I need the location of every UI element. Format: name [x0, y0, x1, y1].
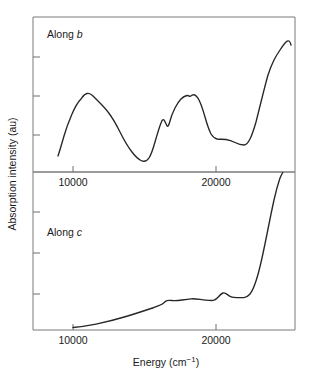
spectrum-curve-along-b [58, 41, 291, 161]
x-tick-label-lower-10000: 10000 [58, 334, 87, 346]
chart-canvas: Along b Along c 10000 20000 10000 20000 … [0, 0, 315, 380]
panel-label-along-b-axis: b [77, 28, 83, 40]
panel-label-along-b: Along b [47, 28, 83, 40]
y-axis-ticks [33, 57, 40, 294]
x-tick-label-upper-20000: 20000 [201, 176, 230, 188]
absorption-spectra-figure: Along b Along c 10000 20000 10000 20000 … [0, 0, 315, 380]
lower-panel-frame [33, 172, 295, 330]
x-axis-title-close: ) [196, 356, 200, 368]
panel-label-along-c-prefix: Along [47, 226, 77, 238]
x-axis-ticks-upper [73, 166, 216, 172]
y-axis-title: Absorption intensity (au) [6, 117, 18, 230]
x-axis-title-main: Energy (cm [133, 356, 187, 368]
panel-label-along-c: Along c [47, 226, 83, 238]
panel-label-along-c-axis: c [77, 226, 83, 238]
upper-panel-frame [33, 17, 295, 172]
x-axis-title: Energy (cm−1) [133, 355, 199, 368]
x-tick-label-upper-10000: 10000 [58, 176, 87, 188]
spectrum-curve-along-c [73, 173, 283, 328]
panel-label-along-b-prefix: Along [47, 28, 77, 40]
x-tick-label-lower-20000: 20000 [201, 334, 230, 346]
